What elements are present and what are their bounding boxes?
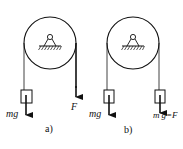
pulley-diagrams: mg F a) mg m'g=F b)	[0, 0, 183, 149]
label-mg-a: mg	[6, 109, 18, 119]
label-F: F	[71, 102, 77, 112]
label-mg-b: mg	[89, 109, 101, 119]
pulley-wheel-b	[107, 17, 159, 69]
diagram-a	[21, 17, 76, 115]
caption-a: a)	[45, 124, 53, 134]
pulley-wheel-a	[24, 17, 76, 69]
pulley-support-icon	[122, 34, 145, 50]
pulley-support-icon	[39, 34, 62, 50]
diagram-graphics	[0, 0, 183, 149]
label-m-prime-g-equals-F: m'g=F	[153, 111, 178, 120]
diagram-b	[104, 17, 165, 115]
caption-b: b)	[124, 125, 132, 135]
